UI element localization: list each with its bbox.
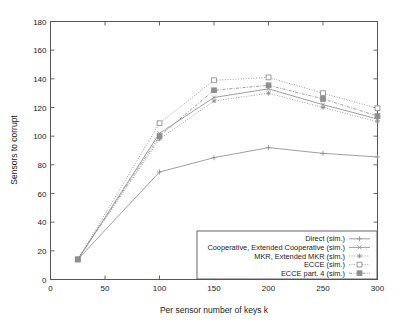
- x-tick-label: 250: [316, 284, 330, 293]
- y-axis-title: Sensors to corrupt: [9, 115, 19, 185]
- legend-marker-4: [357, 271, 362, 276]
- y-tick-label: 140: [33, 75, 47, 84]
- y-tick-label: 120: [33, 104, 47, 113]
- y-tick-label: 40: [38, 218, 47, 227]
- chart-legend[interactable]: Direct (sim.)Cooperative, Extended Coope…: [197, 231, 377, 279]
- x-tick-label: 200: [262, 284, 276, 293]
- x-axis-title: Per sensor number of keys k: [160, 305, 269, 315]
- x-tick-label: 50: [101, 284, 110, 293]
- y-tick-label: 80: [38, 161, 47, 170]
- x-tick-label: 150: [207, 284, 221, 293]
- x-tick-label: 0: [48, 284, 53, 293]
- legend-marker-3: [357, 262, 362, 267]
- legend-marker-2: [357, 254, 362, 259]
- x-tick-label: 100: [153, 284, 167, 293]
- y-tick-label: 160: [33, 46, 47, 55]
- legend-label-4: ECCE part. 4 (sim.): [281, 269, 345, 278]
- y-tick-label: 180: [33, 18, 47, 27]
- y-tick-label: 100: [33, 132, 47, 141]
- y-tick-label: 0: [42, 276, 47, 285]
- x-tick-label: 300: [371, 284, 385, 293]
- sensors-to-corrupt-line-chart: 020406080100120140160180 050100150200250…: [0, 0, 398, 324]
- y-tick-label: 20: [38, 247, 47, 256]
- y-tick-label: 60: [38, 190, 47, 199]
- chart-figure: 020406080100120140160180 050100150200250…: [0, 0, 398, 324]
